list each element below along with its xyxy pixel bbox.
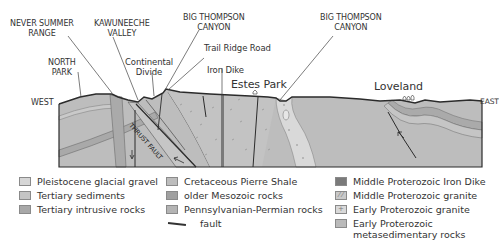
label-line: RANGE [10, 29, 74, 39]
granite-hatch-icon: ⁄ ⁄ [336, 190, 346, 201]
legend-label: Middle Proterozoic granite [353, 190, 477, 201]
legend-item-pleistocene-glacial-gravel: Pleistocene glacial gravel [19, 176, 158, 187]
label-line: CANYON [183, 23, 245, 33]
label-estes-park: Estes Park [231, 79, 287, 91]
swatch-pennsylvanian-permian [166, 205, 178, 214]
legend-label: Tertiary intrusive rocks [37, 204, 145, 215]
legend-item-pennsylvanian-permian: Pennsylvanian-Permian rocks [166, 204, 323, 215]
swatch-cretaceous [166, 177, 178, 186]
label-iron-dike: Iron Dike [207, 65, 244, 75]
label-line: PARK [48, 68, 76, 78]
legend-label: Pennsylvanian-Permian rocks [184, 204, 323, 215]
label-north-park: NORTH PARK [48, 58, 76, 78]
legend-label: Tertiary sediments [37, 190, 125, 201]
label-line: BIG THOMPSON [183, 13, 245, 23]
plus-icon: + [336, 204, 346, 215]
swatch-pleistocene [19, 177, 31, 186]
label-line: Divide [125, 67, 173, 77]
legend-item-early-proterozoic-metasedimentary: Early Proterozoic metasedimentary rocks [335, 218, 466, 240]
legend-item-older-mesozoic: older Mesozoic rocks [166, 190, 283, 201]
label-line: KAWUNEECHE [94, 19, 150, 29]
fault-line-icon [168, 222, 186, 225]
label-west: WEST [31, 98, 54, 108]
label-continental-divide: Continental Divide [125, 57, 173, 77]
legend-item-cretaceous-pierre-shale: Cretaceous Pierre Shale [166, 176, 297, 187]
swatch-metasedimentary [335, 219, 347, 228]
legend-item-middle-proterozoic-granite: ⁄ ⁄ Middle Proterozoic granite [335, 190, 477, 201]
legend-label: Cretaceous Pierre Shale [184, 176, 297, 187]
label-line: CANYON [320, 23, 382, 33]
label-big-thompson-canyon-west: BIG THOMPSON CANYON [183, 13, 245, 33]
label-east: EAST [480, 97, 499, 107]
legend-item-iron-dike: Middle Proterozoic Iron Dike [335, 176, 486, 187]
label-line: NORTH [48, 58, 76, 68]
label-line: BIG THOMPSON [320, 13, 382, 23]
legend-label-multiline: Early Proterozoic metasedimentary rocks [353, 218, 466, 240]
legend-item-tertiary-sediments: Tertiary sediments [19, 190, 125, 201]
label-trail-ridge-road: Trail Ridge Road [204, 43, 271, 53]
legend-label-line: Early Proterozoic [353, 218, 466, 229]
label-loveland: Loveland [374, 81, 423, 93]
swatch-iron-dike [335, 177, 347, 186]
swatch-tertiary-intrusive [19, 205, 31, 214]
swatch-tertiary-sediments [19, 191, 31, 200]
legend-item-fault: fault [166, 218, 222, 229]
iron-dike [221, 95, 224, 167]
granite-inclusion [283, 110, 289, 120]
legend-label: Early Proterozoic granite [353, 204, 470, 215]
legend-item-early-proterozoic-granite: + Early Proterozoic granite [335, 204, 470, 215]
swatch-middle-proterozoic-granite: ⁄ ⁄ [335, 191, 347, 200]
swatch-older-mesozoic [166, 191, 178, 200]
swatch-early-proterozoic-granite: + [335, 205, 347, 214]
label-line: VALLEY [94, 29, 150, 39]
legend-label: Middle Proterozoic Iron Dike [353, 176, 486, 187]
label-line: NEVER SUMMER [10, 19, 74, 29]
legend-label-line: metasedimentary rocks [353, 229, 466, 240]
legend-item-tertiary-intrusive: Tertiary intrusive rocks [19, 204, 145, 215]
label-line: Continental [125, 57, 173, 67]
label-big-thompson-canyon-east: BIG THOMPSON CANYON [320, 13, 382, 33]
loveland-houses-icon [403, 95, 414, 100]
label-kawuneeche-valley: KAWUNEECHE VALLEY [94, 19, 150, 39]
legend-label: Pleistocene glacial gravel [37, 176, 158, 187]
label-never-summer-range: NEVER SUMMER RANGE [10, 19, 74, 39]
legend-label: fault [200, 218, 222, 229]
leader-lines [68, 30, 333, 100]
legend-label: older Mesozoic rocks [184, 190, 283, 201]
